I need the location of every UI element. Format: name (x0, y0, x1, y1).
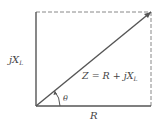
impedance-triangle-diagram: jXL Z = R + jXL θ R (0, 0, 159, 127)
impedance-label: Z = R + jXL (81, 70, 137, 82)
resistance-label: R (89, 110, 98, 121)
impedance-vector (36, 12, 151, 106)
reactance-label: jXL (7, 54, 23, 66)
angle-label: θ (63, 94, 68, 103)
